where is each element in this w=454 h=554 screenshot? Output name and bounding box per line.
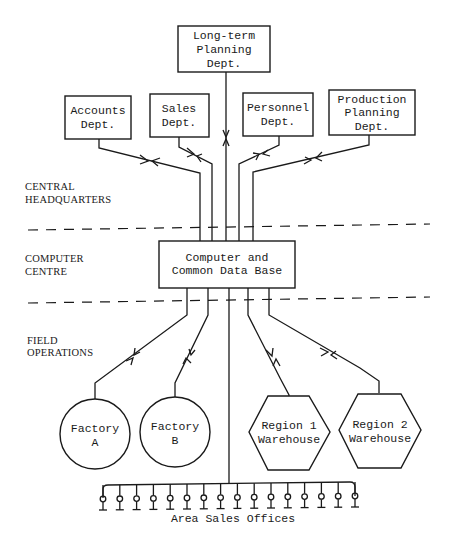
factory-a-label-1: Factory [71, 422, 119, 435]
personnel-label-2: Dept. [261, 115, 296, 128]
region-1-label-1: Region 1 [261, 419, 316, 432]
organization-data-flow-diagram: CENTRAL HEADQUARTERS COMPUTER CENTRE FIE… [0, 0, 454, 554]
sales-office-tap [133, 485, 141, 510]
personnel-dept: Personnel Dept. [243, 93, 313, 136]
sales-label-2: Dept. [162, 116, 197, 129]
sales-office-tap [116, 485, 124, 510]
region-1-label-2: Warehouse [258, 433, 320, 446]
factory-b-label-2: B [172, 434, 179, 447]
link-sales [179, 137, 212, 241]
production-planning-dept: Production Planning Dept. [329, 90, 415, 135]
link-factory-b [175, 288, 208, 397]
longterm-planning-dept: Long-term Planning Dept. [178, 26, 270, 72]
sales-office-tap [267, 483, 275, 508]
sales-office-tap [301, 483, 309, 508]
sales-office-taps [99, 482, 359, 510]
region-2-warehouse: Region 2 Warehouse [339, 394, 421, 468]
area-sales-offices: Area Sales Offices [99, 482, 359, 525]
region-2-label-1: Region 2 [352, 418, 407, 431]
zone-label-cc-1: COMPUTER [25, 253, 84, 264]
sales-office-tap [334, 482, 342, 507]
zone-label-cc-2: CENTRE [25, 266, 67, 277]
sales-office-tap [166, 484, 174, 509]
region-1-warehouse: Region 1 Warehouse [249, 396, 330, 470]
longterm-label-3: Dept. [207, 57, 242, 70]
factory-a: Factory A [60, 399, 130, 469]
link-production [253, 135, 369, 241]
computer-common-data-base: Computer and Common Data Base [159, 241, 295, 288]
region-2-label-2: Warehouse [349, 432, 411, 445]
arrow-personnel-in [263, 150, 270, 156]
production-label-3: Dept. [355, 120, 390, 133]
accounts-dept: Accounts Dept. [65, 96, 131, 139]
zone-label-field-1: FIELD [27, 335, 58, 346]
accounts-label-1: Accounts [70, 104, 125, 117]
longterm-label-2: Planning [196, 43, 251, 56]
sales-label-1: Sales [162, 102, 197, 115]
zone-divider-hq-computer [28, 224, 430, 230]
sales-office-tap [149, 484, 157, 509]
sales-office-tap [183, 484, 191, 509]
zone-label-hq-2: HEADQUARTERS [25, 194, 111, 205]
arrow-factory-b-out [189, 349, 195, 355]
link-factory-a [95, 288, 187, 399]
factory-b: Factory B [140, 397, 210, 467]
production-label-1: Production [337, 93, 406, 106]
sales-office-tap [200, 484, 208, 509]
production-label-2: Planning [344, 106, 399, 119]
zone-label-field-2: OPERATIONS [27, 347, 93, 358]
sales-office-tap [233, 483, 241, 508]
sales-dept: Sales Dept. [150, 94, 209, 137]
factory-b-label-1: Factory [151, 420, 199, 433]
sales-office-tap [284, 483, 292, 508]
zone-label-hq-1: CENTRAL [25, 181, 75, 192]
link-accounts [99, 139, 200, 241]
link-region-2 [269, 288, 379, 393]
area-sales-offices-label: Area Sales Offices [171, 512, 295, 525]
sales-office-tap [317, 482, 325, 507]
sales-office-tap [217, 484, 225, 509]
longterm-label-1: Long-term [193, 29, 255, 42]
accounts-label-2: Dept. [81, 118, 116, 131]
personnel-label-1: Personnel [247, 101, 309, 114]
sales-office-bus [103, 482, 355, 498]
sales-office-tap [250, 483, 258, 508]
factory-a-label-2: A [92, 436, 99, 449]
computer-label-1: Computer and [186, 251, 269, 264]
link-personnel [239, 136, 279, 241]
computer-label-2: Common Data Base [172, 264, 283, 277]
arrow-region-1-in [273, 359, 280, 366]
